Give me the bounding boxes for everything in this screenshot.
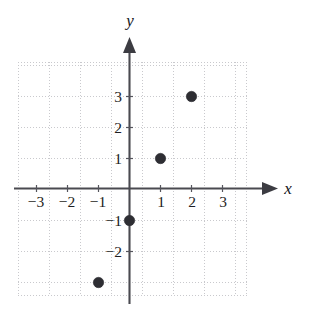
data-point-marker[interactable]	[186, 91, 196, 101]
y-tick-label: −1	[106, 212, 123, 229]
x-axis-label: x	[283, 179, 292, 198]
data-point-marker[interactable]	[93, 277, 103, 287]
y-tick-label: −2	[106, 243, 123, 260]
y-tick-label: 3	[114, 88, 122, 105]
data-point-marker[interactable]	[124, 215, 134, 225]
y-axis-label: y	[124, 11, 134, 30]
y-tick-label: 2	[114, 119, 122, 136]
axes-layer	[14, 37, 278, 304]
scatter-plot-svg: −3 −2 −1 1 2 3 3 2 1 −1 −2 x y	[0, 0, 311, 319]
arrow-up-icon	[123, 37, 136, 53]
arrow-right-icon	[262, 182, 278, 195]
x-tick-label: −3	[28, 193, 45, 210]
y-tick-labels: 3 2 1 −1 −2	[106, 88, 123, 260]
data-point-marker[interactable]	[155, 153, 165, 163]
grid-horizontal-lines	[18, 63, 247, 296]
x-tick-label: 2	[188, 193, 196, 210]
x-tick-label: −2	[59, 193, 76, 210]
x-tick-labels: −3 −2 −1 1 2 3	[28, 193, 227, 210]
y-tick-label: 1	[114, 150, 122, 167]
x-tick-label: −1	[90, 193, 107, 210]
x-tick-label: 3	[219, 193, 227, 210]
x-tick-label: 1	[157, 193, 165, 210]
coordinate-plane-figure: −3 −2 −1 1 2 3 3 2 1 −1 −2 x y	[0, 0, 311, 319]
